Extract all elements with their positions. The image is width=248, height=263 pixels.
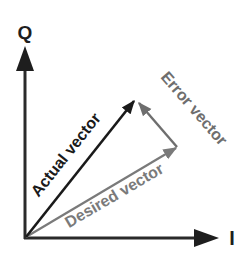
q-axis-arrowhead-icon bbox=[16, 46, 34, 71]
error-vector: Error vector bbox=[139, 68, 231, 148]
q-axis: Q bbox=[16, 22, 34, 239]
i-axis: I bbox=[24, 227, 235, 249]
i-axis-arrowhead-icon bbox=[194, 229, 219, 247]
q-axis-label: Q bbox=[18, 22, 33, 43]
i-axis-label: I bbox=[229, 227, 235, 249]
iq-vector-diagram: Q I Desired vector Actual vector Error v… bbox=[0, 0, 248, 263]
